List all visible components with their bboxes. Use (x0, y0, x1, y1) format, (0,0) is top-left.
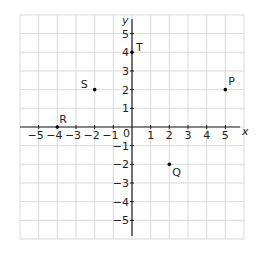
coordinate-grid: −5−4−3−2−11234554321−1−2−3−4−5 PQRST x y… (0, 0, 256, 253)
y-tick-label: 2 (122, 84, 129, 97)
point-t (130, 51, 134, 55)
x-tick-label: 4 (203, 129, 210, 142)
y-tick-label: 4 (122, 46, 129, 59)
x-tick-label: 2 (166, 129, 173, 142)
point-label-p: P (228, 75, 235, 88)
point-q (168, 163, 172, 167)
x-tick-label: 5 (222, 129, 229, 142)
x-axis-label: x (241, 125, 249, 138)
x-tick-label: 1 (147, 129, 154, 142)
y-axis-label: y (121, 14, 129, 27)
point-s (93, 88, 97, 92)
y-tick-label: 5 (122, 28, 129, 41)
point-label-t: T (135, 41, 143, 54)
point-label-q: Q (172, 166, 181, 179)
y-tick-label: −2 (113, 158, 129, 171)
y-tick-label: 1 (122, 102, 129, 115)
y-tick-label: −1 (113, 140, 129, 153)
origin-label: 0 (123, 127, 130, 140)
x-tick-label: −2 (84, 129, 100, 142)
x-tick-label: −5 (28, 129, 44, 142)
y-tick-label: −4 (113, 196, 129, 209)
x-tick-label: −4 (46, 129, 62, 142)
x-tick-label: −3 (65, 129, 81, 142)
plotted-points: PQRST (56, 41, 236, 179)
point-label-r: R (59, 113, 67, 126)
y-tick-label: −3 (113, 177, 129, 190)
x-tick-label: 3 (185, 129, 192, 142)
y-tick-label: −5 (113, 214, 129, 227)
point-label-s: S (81, 78, 88, 91)
y-tick-label: 3 (122, 65, 129, 78)
point-p (224, 88, 228, 92)
